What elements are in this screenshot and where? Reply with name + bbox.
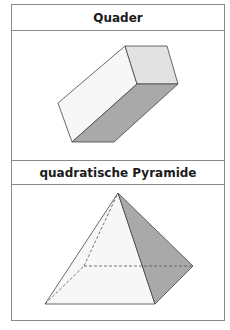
pyramid-figure bbox=[45, 193, 193, 304]
shapes-drawing bbox=[0, 0, 230, 330]
cuboid-figure bbox=[58, 46, 178, 142]
